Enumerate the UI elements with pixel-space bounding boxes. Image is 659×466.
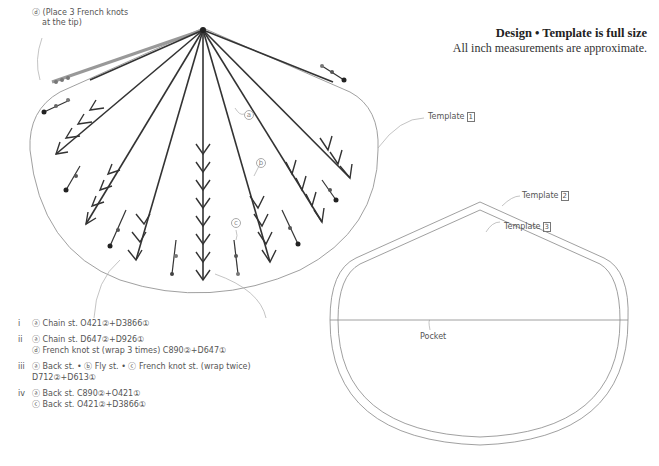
- callout-a: a: [244, 110, 254, 120]
- tip-note-line1: ⓓ (Place 3 French knots: [32, 8, 128, 18]
- stitch-legend: i ⓐ Chain st. O421②+D3866① ii ⓐ Chain st…: [18, 318, 251, 415]
- template-3-label: Template3: [504, 222, 551, 232]
- legend-row-i: i ⓐ Chain st. O421②+D3866①: [18, 318, 251, 329]
- fly-stitch-chevrons: [56, 100, 352, 280]
- legend-num: iii: [18, 361, 32, 383]
- subtitle: All inch measurements are approximate.: [453, 41, 647, 56]
- template-3-number: 3: [543, 222, 551, 232]
- legend-line: ⓐ Back st. C890②+O421①: [32, 388, 146, 399]
- template-1-text: Template: [428, 112, 465, 121]
- legend-row-iii: iii ⓐ Back st. • ⓑ Fly st. • ⓒ French kn…: [18, 361, 251, 383]
- template-2-text: Template: [522, 191, 559, 200]
- legend-row-ii: ii ⓐ Chain st. D647②+D926① ⓓ French knot…: [18, 334, 251, 356]
- legend-num: i: [18, 318, 32, 329]
- callout-c: c: [231, 218, 241, 228]
- legend-line: D712②+D613①: [32, 372, 251, 383]
- legend-row-iv: iv ⓐ Back st. C890②+O421① ⓒ Back st. O42…: [18, 388, 251, 410]
- legend-line: ⓓ French knot st (wrap 3 times) C890②+D6…: [32, 345, 226, 356]
- template-3-outline: [338, 210, 620, 437]
- template-3-text: Template: [504, 222, 541, 231]
- legend-line: ⓐ Chain st. D647②+D926①: [32, 334, 226, 345]
- legend-num: iv: [18, 388, 32, 410]
- template-2-outline: [330, 202, 628, 445]
- pocket-label: Pocket: [420, 332, 446, 341]
- tip-note: ⓓ (Place 3 French knots at the tip): [32, 8, 128, 28]
- legend-line: ⓐ Back st. • ⓑ Fly st. • ⓒ French knot s…: [32, 361, 251, 372]
- template-1-number: 1: [467, 112, 475, 122]
- french-knot-stitches: [42, 27, 347, 276]
- title: Design • Template is full size: [453, 26, 647, 41]
- chain-stitch-rays: [52, 30, 350, 280]
- template-1-label: Template1: [428, 112, 475, 122]
- title-block: Design • Template is full size All inch …: [453, 26, 647, 56]
- legend-line: ⓒ Back st. O421②+D3866①: [32, 399, 146, 410]
- template-2-label: Template2: [522, 191, 569, 201]
- template-2-number: 2: [561, 191, 569, 201]
- template-1-outline: [30, 28, 378, 293]
- legend-num: ii: [18, 334, 32, 356]
- callout-b: b: [256, 158, 266, 168]
- tip-note-line2: at the tip): [32, 18, 128, 28]
- legend-line: ⓐ Chain st. O421②+D3866①: [32, 318, 149, 329]
